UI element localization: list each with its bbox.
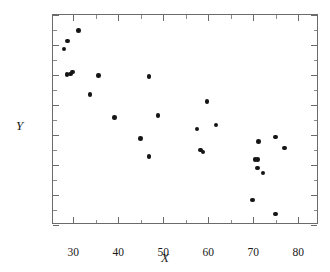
x-axis-tick-top	[253, 15, 254, 21]
data-point	[195, 127, 200, 132]
x-axis-minor-tick-top	[276, 15, 277, 19]
x-axis-tick-label: 60	[203, 247, 215, 259]
x-axis-tick	[208, 217, 209, 223]
y-axis-tick-right	[311, 165, 317, 166]
x-axis-tick-label: 70	[248, 247, 260, 259]
y-axis-minor-tick-right	[314, 180, 318, 181]
data-point	[76, 28, 81, 33]
y-axis-tick	[53, 195, 59, 196]
data-point	[147, 74, 152, 79]
data-point	[112, 115, 117, 120]
data-point	[256, 139, 261, 144]
x-axis-minor-tick-top	[186, 15, 187, 19]
y-axis-minor-tick	[53, 210, 57, 211]
data-point	[250, 198, 255, 203]
y-axis-tick-right	[311, 15, 317, 16]
x-axis-tick	[118, 217, 119, 223]
data-point	[273, 135, 278, 140]
x-axis-minor-tick	[231, 220, 232, 224]
data-point	[261, 171, 266, 176]
x-axis-minor-tick-top	[141, 15, 142, 19]
x-axis-tick	[253, 217, 254, 223]
x-axis-tick-label: 80	[293, 247, 305, 259]
x-axis-tick	[298, 217, 299, 223]
x-axis-minor-tick-top	[96, 15, 97, 19]
y-axis-minor-tick-right	[314, 30, 318, 31]
x-axis-tick-label: 50	[158, 247, 170, 259]
y-axis-minor-tick	[53, 90, 57, 91]
y-axis-tick	[53, 15, 59, 16]
data-point	[88, 92, 93, 97]
x-axis-minor-tick	[96, 220, 97, 224]
y-axis-tick-right	[311, 195, 317, 196]
y-axis-tick	[53, 45, 59, 46]
data-point	[96, 73, 101, 78]
data-point	[70, 70, 75, 75]
data-point	[214, 123, 219, 128]
y-axis-tick	[53, 225, 59, 226]
x-axis-tick-top	[208, 15, 209, 21]
x-axis-tick-label: 30	[68, 247, 80, 259]
y-axis-minor-tick-right	[314, 210, 318, 211]
y-axis-tick	[53, 165, 59, 166]
y-axis-tick-right	[311, 225, 317, 226]
y-axis-minor-tick	[53, 120, 57, 121]
data-point	[156, 113, 161, 118]
y-axis-minor-tick-right	[314, 120, 318, 121]
y-axis-tick-right	[311, 105, 317, 106]
x-axis-tick-top	[298, 15, 299, 21]
y-axis-tick	[53, 135, 59, 136]
y-axis-tick	[53, 105, 59, 106]
y-axis-tick-right	[311, 45, 317, 46]
x-axis-tick	[163, 217, 164, 223]
y-axis-tick-right	[311, 75, 317, 76]
x-axis-minor-tick-top	[231, 15, 232, 19]
x-axis-minor-tick	[276, 220, 277, 224]
y-axis-tick-right	[311, 135, 317, 136]
data-point	[201, 150, 206, 155]
y-axis-tick	[53, 75, 59, 76]
data-point	[255, 166, 260, 171]
y-axis-minor-tick-right	[314, 150, 318, 151]
plot-area	[53, 15, 317, 223]
x-axis-tick-top	[73, 15, 74, 21]
x-axis-tick-top	[163, 15, 164, 21]
y-axis-title: Y	[16, 118, 23, 134]
x-axis-tick-label: 40	[113, 247, 125, 259]
x-axis-tick-top	[118, 15, 119, 21]
y-axis-minor-tick	[53, 180, 57, 181]
x-axis-tick	[73, 217, 74, 223]
scatter-plot-figure: Y X 678910111213304050607080	[0, 0, 330, 272]
y-axis-minor-tick	[53, 30, 57, 31]
data-point	[62, 47, 67, 52]
x-axis-minor-tick	[141, 220, 142, 224]
y-axis-minor-tick	[53, 60, 57, 61]
data-point	[147, 154, 152, 159]
y-axis-minor-tick-right	[314, 60, 318, 61]
plot-frame: 678910111213304050607080	[52, 14, 318, 224]
data-point	[65, 39, 70, 44]
data-point	[138, 136, 143, 141]
y-axis-minor-tick-right	[314, 90, 318, 91]
x-axis-minor-tick	[186, 220, 187, 224]
y-axis-minor-tick	[53, 150, 57, 151]
data-point	[273, 212, 278, 217]
data-point	[282, 146, 287, 151]
data-point	[255, 157, 260, 162]
data-point	[205, 99, 210, 104]
